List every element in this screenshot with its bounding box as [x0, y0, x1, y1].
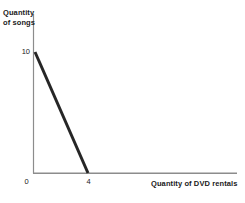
chart-figure: Quantity of songs Quantity of DVD rental…: [0, 0, 245, 203]
x-axis-title: Quantity of DVD rentals: [151, 179, 237, 189]
y-axis-title: Quantity of songs: [3, 8, 35, 27]
y-tick-label-10: 10: [13, 47, 30, 56]
plot-area: [0, 0, 245, 203]
x-tick-label-0: 0: [22, 177, 31, 186]
budget-constraint-line: [35, 52, 88, 173]
x-tick-label-4: 4: [84, 177, 93, 186]
